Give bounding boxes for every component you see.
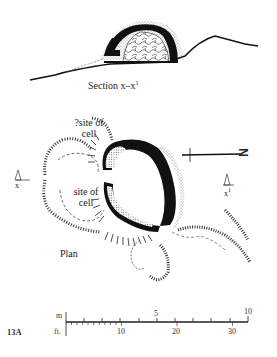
cell-label-lower: site of cell (66, 186, 106, 208)
figure-number: 13A (7, 327, 22, 337)
scale-metric-unit: m (56, 311, 62, 320)
north-arrow-label: N (239, 148, 250, 157)
plan-label: Plan (60, 248, 78, 259)
cell-label-lower-line2: cell (66, 197, 106, 208)
cell-label-upper: ?site of cell (66, 117, 112, 139)
section-label: Section x–x1 (88, 78, 139, 91)
scale-metric-tick-5: 5 (154, 309, 158, 318)
section-marker-left (15, 170, 30, 180)
section-marker-right-sup: 1 (228, 187, 231, 193)
section-label-text: Section x–x (88, 80, 136, 91)
scale-metric-tick-10: 10 (244, 307, 252, 316)
scale-imperial-tick-30: 30 (228, 327, 236, 336)
section-marker-right (223, 174, 234, 185)
section-marker-right-label: x1 (224, 185, 231, 199)
cell-label-upper-line2: cell (66, 128, 112, 139)
archaeological-drawing (0, 0, 277, 357)
cell-label-lower-line1: site of (66, 186, 106, 197)
scale-imperial-unit: ft. (54, 327, 61, 336)
section-label-sup: 1 (136, 80, 139, 86)
cell-label-upper-line1: ?site of (66, 117, 112, 128)
section-marker-left-label: x (15, 180, 19, 191)
cell-outline-upper (58, 153, 98, 172)
scale-imperial-tick-20: 20 (172, 327, 180, 336)
scale-imperial-tick-10: 10 (117, 327, 125, 336)
plan-drawing (15, 118, 250, 280)
north-arrow (182, 148, 240, 162)
section-drawing (30, 21, 258, 80)
